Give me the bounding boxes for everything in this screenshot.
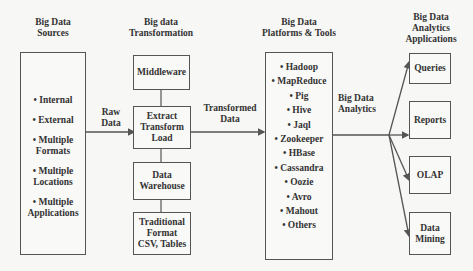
sources-box: • Internal • External • Multiple Formats… xyxy=(20,52,86,255)
app-box-data-mining: Data Mining xyxy=(409,212,451,255)
edge-label-big-data-analytics: Big Data Analytics xyxy=(338,93,382,115)
header-transformation-line2: Transformation xyxy=(120,28,202,39)
source-item-text: Formats xyxy=(33,146,74,157)
source-item-multiple-formats: • Multiple Formats xyxy=(33,135,74,157)
edge-label-line: Big Data xyxy=(338,93,382,104)
platform-item-hive: • Hive xyxy=(287,105,312,116)
header-platforms-line2: Platforms & Tools xyxy=(255,28,343,39)
platform-item-mahout: • Mahout xyxy=(280,206,318,217)
app-box-text: Queries xyxy=(414,63,446,74)
app-box-text: Mining xyxy=(415,234,445,245)
source-item-text: • External xyxy=(32,115,73,126)
edge-label-line: Analytics xyxy=(338,104,382,115)
app-box-text: Reports xyxy=(414,115,446,126)
app-box-text: OLAP xyxy=(417,170,443,181)
header-platforms: Big Data Platforms & Tools xyxy=(255,17,343,39)
platform-item-mapreduce: • MapReduce xyxy=(272,76,327,87)
source-item-multiple-applications: • Multiple Applications xyxy=(27,197,78,219)
platform-item-hadoop: • Hadoop xyxy=(280,62,318,73)
header-applications: Big Data Analytics Applications xyxy=(398,12,464,45)
transform-box-data-warehouse: Data Warehouse xyxy=(133,162,191,200)
edge-label-line: Data xyxy=(92,118,130,129)
header-transformation-line1: Big data xyxy=(120,17,202,28)
header-sources-line1: Big Data xyxy=(18,17,88,28)
app-box-queries: Queries xyxy=(409,53,451,84)
platform-item-others: • Others xyxy=(282,220,316,231)
source-item-text: • Multiple xyxy=(27,197,78,208)
transform-box-text: Middleware xyxy=(137,67,186,78)
platform-item-hbase: • HBase xyxy=(283,148,315,159)
app-box-reports: Reports xyxy=(409,101,451,139)
header-applications-line3: Applications xyxy=(398,34,464,45)
transform-box-etl: Extract Transform Load xyxy=(133,106,191,149)
source-item-multiple-locations: • Multiple Locations xyxy=(33,166,74,188)
transform-box-text: Warehouse xyxy=(139,181,184,192)
transform-box-text: Traditional xyxy=(138,217,186,228)
source-item-text: Applications xyxy=(27,208,78,219)
platforms-box: • Hadoop • MapReduce • Pig • Hive • Jaql… xyxy=(265,52,333,260)
transform-box-text: CSV, Tables xyxy=(138,239,186,250)
app-box-olap: OLAP xyxy=(409,156,451,194)
header-applications-line1: Big Data xyxy=(398,12,464,23)
header-applications-line2: Analytics xyxy=(398,23,464,34)
edge-label-line: Transformed xyxy=(200,103,260,114)
header-transformation: Big data Transformation xyxy=(120,17,202,39)
edge-label-raw-data: Raw Data xyxy=(92,107,130,129)
platform-item-pig: • Pig xyxy=(290,91,309,102)
platform-item-avro: • Avro xyxy=(287,192,312,203)
header-sources-line2: Sources xyxy=(18,28,88,39)
transform-box-text: Format xyxy=(138,228,186,239)
transform-box-middleware: Middleware xyxy=(133,55,190,90)
source-item-text: • Internal xyxy=(34,95,73,106)
edge-label-line: Raw xyxy=(92,107,130,118)
source-item-internal: • Internal xyxy=(34,95,73,106)
transform-box-text: Data xyxy=(139,170,184,181)
transform-box-traditional-format: Traditional Format CSV, Tables xyxy=(133,212,191,255)
source-item-text: • Multiple xyxy=(33,135,74,146)
app-box-text: Data xyxy=(415,223,445,234)
edge-label-line: Data xyxy=(200,114,260,125)
platform-item-zookeeper: • Zookeeper xyxy=(275,134,324,145)
edge-label-transformed-data: Transformed Data xyxy=(200,103,260,125)
source-item-text: Locations xyxy=(33,177,74,188)
platform-item-oozie: • Oozie xyxy=(285,177,314,188)
transform-box-text: Extract xyxy=(140,111,184,122)
source-item-external: • External xyxy=(32,115,73,126)
source-item-text: • Multiple xyxy=(33,166,74,177)
header-sources: Big Data Sources xyxy=(18,17,88,39)
transform-box-text: Transform xyxy=(140,122,184,133)
platform-item-jaql: • Jaql xyxy=(287,120,310,131)
platform-item-cassandra: • Cassandra xyxy=(275,163,324,174)
transform-box-text: Load xyxy=(140,133,184,144)
header-platforms-line1: Big Data xyxy=(255,17,343,28)
